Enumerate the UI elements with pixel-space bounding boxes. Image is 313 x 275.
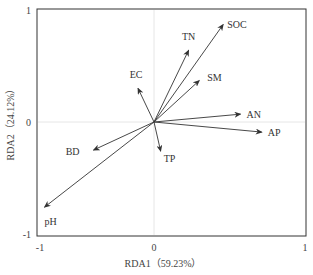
vector-label-ap: AP: [268, 127, 281, 138]
y-axis-title: RDA2（24.12%）: [5, 84, 16, 161]
vector-label-soc: SOC: [227, 19, 247, 30]
y-tick-0: 0: [26, 117, 31, 128]
vector-arrow-tp: [154, 122, 161, 151]
x-tick-1: 1: [303, 242, 308, 253]
y-tick-1: 1: [26, 5, 31, 16]
x-tick-0: 0: [152, 242, 157, 253]
vector-arrow-an: [154, 114, 240, 122]
x-tick-neg1: -1: [36, 242, 44, 253]
vector-arrow-ec: [138, 88, 154, 122]
vector-label-tp: TP: [164, 153, 176, 164]
rda-biplot: SOCTNSMECANAPTPBDpH 1 0 -1 -1 0 1 RDA1（5…: [0, 0, 313, 275]
vector-arrow-ph: [45, 122, 154, 207]
y-tick-neg1: -1: [23, 229, 31, 240]
x-axis-title: RDA1（59.23%）: [125, 258, 202, 269]
vector-label-tn: TN: [182, 31, 195, 42]
vector-label-ph: pH: [45, 216, 57, 227]
vector-label-sm: SM: [207, 72, 222, 83]
vector-label-an: AN: [246, 109, 260, 120]
zero-gridlines: [38, 10, 305, 235]
vector-label-ec: EC: [130, 69, 143, 80]
vector-label-bd: BD: [66, 146, 80, 157]
vector-arrow-sm: [154, 81, 199, 122]
vector-arrow-ap: [154, 122, 262, 132]
vector-arrow-tn: [154, 50, 189, 122]
loading-vectors: [45, 25, 262, 208]
